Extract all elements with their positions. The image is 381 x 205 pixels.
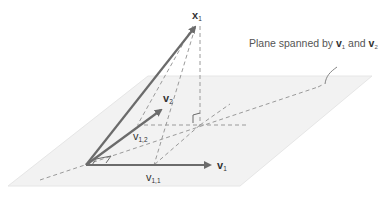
plane xyxy=(8,76,372,186)
label-x1: x1 xyxy=(192,9,202,22)
diagram-canvas: x1 v2 v1 v1,2 v1,1 Plane spanned by v1 a… xyxy=(0,0,381,205)
plane-caption: Plane spanned by v1 and v2 xyxy=(249,37,378,50)
